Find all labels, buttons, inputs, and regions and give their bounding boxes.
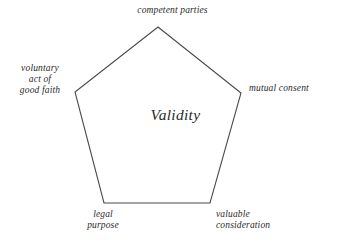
vertex-label-voluntary-act-of-good-faith: voluntary act of good faith xyxy=(6,63,74,97)
vertex-label-legal-purpose: legal purpose xyxy=(60,209,146,231)
vertex-label-competent-parties: competent parties xyxy=(3,5,339,16)
center-label-validity: Validity xyxy=(6,106,339,124)
pentagon-diagram: competent parties voluntary act of good … xyxy=(0,0,339,245)
vertex-label-valuable-consideration: valuable consideration xyxy=(216,209,326,231)
vertex-label-mutual-consent: mutual consent xyxy=(249,83,339,94)
